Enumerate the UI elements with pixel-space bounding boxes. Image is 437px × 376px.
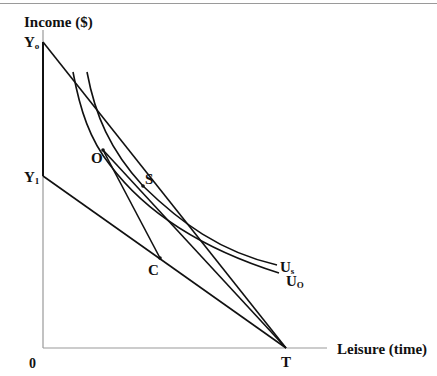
label-y1: Y1 <box>24 169 40 186</box>
tangent-line-s-t <box>103 150 286 348</box>
labor-leisure-diagram: Income ($) Leisure (time) 0 Yo Y1 O S C … <box>0 0 437 376</box>
budget-line-yo-t <box>43 42 286 348</box>
point-c-marker <box>158 256 162 260</box>
label-yo: Yo <box>24 34 40 51</box>
label-c: C <box>148 262 159 278</box>
label-uo: UO <box>286 273 304 290</box>
y-axis-label: Income ($) <box>24 14 93 31</box>
origin-label: 0 <box>29 356 36 371</box>
x-axis-label: Leisure (time) <box>337 341 427 358</box>
label-s: S <box>145 171 153 187</box>
label-t: T <box>281 354 291 370</box>
label-o: O <box>91 150 103 166</box>
indifference-curve-uo <box>73 72 279 273</box>
